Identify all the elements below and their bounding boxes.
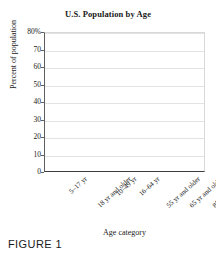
- chart-title: U.S. Population by Age: [0, 9, 216, 19]
- gridline: [45, 51, 204, 52]
- plot-area: [44, 32, 205, 172]
- gridline: [45, 68, 204, 69]
- y-tick-label: 0: [17, 168, 41, 176]
- figure-container: U.S. Population by Age Percent of popula…: [0, 0, 216, 260]
- gridline: [45, 138, 204, 139]
- y-tick-label: 50: [17, 81, 41, 89]
- gridline: [45, 86, 204, 87]
- y-tick-label: 40: [17, 98, 41, 106]
- x-axis-title: Age category: [44, 228, 205, 237]
- figure-caption: FIGURE 1: [8, 238, 62, 250]
- gridline: [45, 156, 204, 157]
- y-tick-label: 60: [17, 63, 41, 71]
- y-tick-label: 10: [17, 151, 41, 159]
- x-tick-label: 5–17 yr: [67, 175, 88, 195]
- gridline: [45, 103, 204, 104]
- y-tick-label: 80%: [17, 28, 41, 36]
- y-axis-ticks: 01020304050607080%: [14, 32, 41, 172]
- y-tick-label: 70: [17, 46, 41, 54]
- y-tick-label: 30: [17, 116, 41, 124]
- y-tick-label: 20: [17, 133, 41, 141]
- x-axis-ticks: 5–17 yr18 yr and older10–49 yr16–64 yr55…: [44, 172, 205, 224]
- gridline: [45, 33, 204, 34]
- gridline: [45, 121, 204, 122]
- x-tick-label: 16–64 yr: [137, 175, 161, 198]
